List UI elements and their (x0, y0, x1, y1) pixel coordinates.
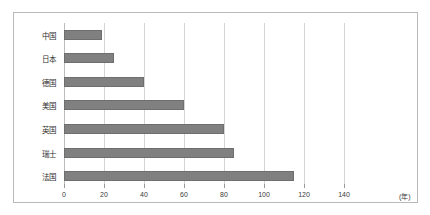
bar (64, 124, 224, 134)
bar-row: 英国 (64, 117, 344, 141)
bar-row: 法国 (64, 164, 344, 188)
x-tick-label-120: 120 (289, 191, 319, 198)
bar (64, 30, 102, 40)
x-axis: 020406080100120140 (64, 188, 344, 204)
gridline-x-140 (344, 23, 345, 188)
bar-row: 中国 (64, 23, 344, 47)
category-label: 中国 (42, 29, 56, 40)
x-tick-label-0: 0 (49, 191, 79, 198)
x-tick-mark-140 (344, 184, 345, 188)
category-label: 德国 (42, 76, 56, 87)
x-tick-mark-100 (264, 184, 265, 188)
x-tick-label-100: 100 (249, 191, 279, 198)
x-tick-mark-60 (184, 184, 185, 188)
x-axis-unit-label: (年) (399, 191, 411, 201)
bar-row: 德国 (64, 70, 344, 94)
category-label: 英国 (42, 124, 56, 135)
bar-row: 瑞士 (64, 141, 344, 165)
x-tick-mark-80 (224, 184, 225, 188)
bar-row: 日本 (64, 47, 344, 71)
bar-row: 美国 (64, 94, 344, 118)
bar (64, 53, 114, 63)
x-tick-label-60: 60 (169, 191, 199, 198)
category-label: 法国 (42, 171, 56, 182)
x-tick-mark-20 (104, 184, 105, 188)
x-tick-label-140: 140 (329, 191, 359, 198)
x-tick-mark-120 (304, 184, 305, 188)
category-label: 美国 (42, 100, 56, 111)
x-tick-mark-0 (64, 184, 65, 188)
bar (64, 77, 144, 87)
x-tick-mark-40 (144, 184, 145, 188)
category-label: 瑞士 (42, 147, 56, 158)
x-tick-label-20: 20 (89, 191, 119, 198)
x-tick-label-40: 40 (129, 191, 159, 198)
plot-area: 中国日本德国美国英国瑞士法国 (64, 23, 344, 188)
bar (64, 100, 184, 110)
bar (64, 171, 294, 181)
bar (64, 148, 234, 158)
chart-frame: 中国日本德国美国英国瑞士法国 020406080100120140 (年) (13, 12, 418, 203)
category-label: 日本 (42, 53, 56, 64)
chart-figure: 中国日本德国美国英国瑞士法国 020406080100120140 (年) (0, 0, 430, 215)
x-tick-label-80: 80 (209, 191, 239, 198)
